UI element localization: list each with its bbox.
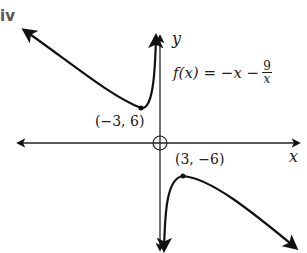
y-axis-label: y [172,29,181,48]
curve-right-branch [164,176,296,250]
x-axis-label: x [289,147,298,166]
formula-lhs: f(x) = −x − [173,64,259,82]
graph-canvas [0,0,307,253]
point-min [139,106,144,111]
point-max [181,174,186,179]
point-label-max: (3, −6) [175,151,224,167]
formula-denominator: x [264,73,271,85]
formula-fraction: 9 x [262,60,272,85]
curve-left-branch [24,30,156,108]
function-formula: f(x) = −x − 9 x [173,60,272,85]
point-label-min: (−3, 6) [95,113,144,129]
